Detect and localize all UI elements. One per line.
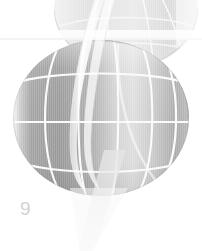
corner-highlight: [176, 0, 202, 46]
page-number: 9: [20, 196, 46, 222]
page-canvas: 9: [0, 0, 202, 251]
